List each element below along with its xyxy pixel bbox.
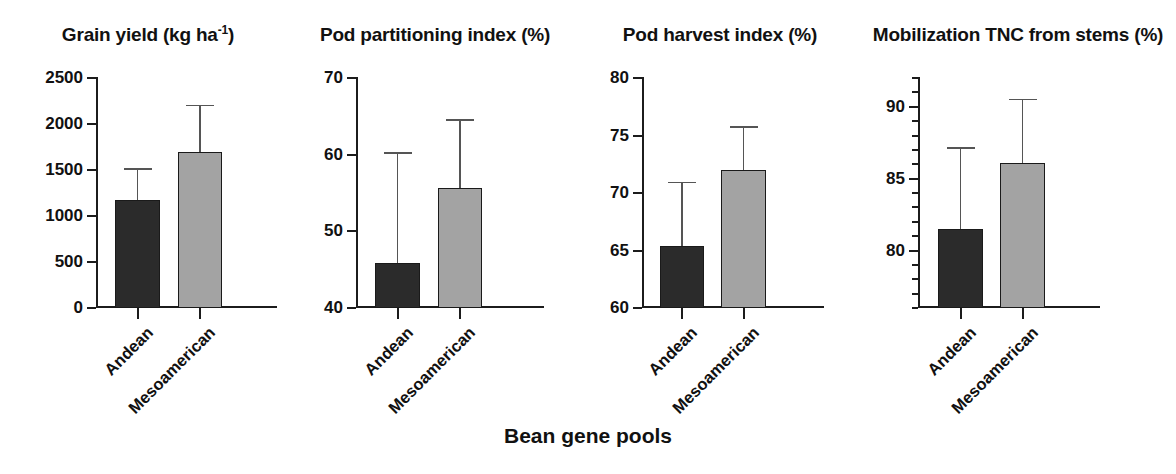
y-axis-tick: [87, 215, 96, 217]
y-axis-tick-label: 1000: [0, 206, 83, 226]
y-axis-line: [918, 77, 920, 308]
error-bar-mesoamerican: [743, 126, 745, 170]
y-axis-line: [96, 77, 98, 308]
panel-title: Grain yield (kg ha-1): [0, 24, 296, 46]
plot-area: 05001000150020002500AndeanMesoamerican: [0, 77, 296, 307]
y-axis-minor-tick: [912, 120, 918, 122]
error-bar-cap-mesoamerican: [446, 119, 474, 121]
y-axis-tick: [347, 154, 356, 156]
y-axis-tick-label: 0: [0, 298, 83, 318]
y-axis-tick: [909, 178, 918, 180]
y-axis-tick: [87, 123, 96, 125]
y-axis-tick-label: 2000: [0, 114, 83, 134]
y-axis-minor-tick: [912, 192, 918, 194]
panel-title-superscript: -1: [218, 23, 228, 37]
bar-andean: [938, 229, 983, 308]
bar-mesoamerican: [1000, 163, 1045, 308]
chart-panel-1: Grain yield (kg ha-1)0500100015002000250…: [0, 0, 296, 410]
panel-title-text: Pod harvest index (%): [623, 24, 817, 45]
y-axis-minor-tick: [912, 206, 918, 208]
figure-canvas: Grain yield (kg ha-1)0500100015002000250…: [0, 0, 1176, 474]
error-bar-cap-andean: [668, 182, 696, 184]
y-axis-tick-label: 40: [290, 298, 343, 318]
error-bar-andean: [397, 152, 399, 262]
x-axis-label-andean: Andean: [360, 323, 416, 379]
error-bar-mesoamerican: [459, 119, 461, 188]
y-axis-line: [356, 77, 358, 308]
y-axis-tick-label: 50: [290, 221, 343, 241]
x-axis-title: Bean gene pools: [0, 424, 1176, 448]
x-axis-tick: [1022, 308, 1024, 319]
y-axis-tick-label: 2500: [0, 68, 83, 88]
y-axis-minor-tick: [912, 221, 918, 223]
y-axis-tick: [633, 77, 642, 79]
y-axis-tick: [633, 192, 642, 194]
y-axis-tick: [87, 169, 96, 171]
y-axis-tick: [347, 230, 356, 232]
y-axis-minor-tick: [912, 91, 918, 93]
y-axis-tick-label: 85: [860, 169, 905, 189]
error-bar-andean: [960, 147, 962, 229]
y-axis-tick: [87, 307, 96, 309]
error-bar-cap-mesoamerican: [186, 105, 214, 107]
panel-title: Mobilization TNC from stems (%): [860, 24, 1176, 46]
y-axis-minor-tick: [912, 278, 918, 280]
panel-title: Pod harvest index (%): [580, 24, 860, 46]
x-axis-label-andean: Andean: [100, 323, 156, 379]
y-axis-tick-label: 500: [0, 252, 83, 272]
y-axis-minor-tick: [912, 77, 918, 79]
plot-area: 40506070AndeanMesoamerican: [290, 77, 580, 307]
plot-area: 6065707580AndeanMesoamerican: [580, 77, 860, 307]
y-axis-tick-label: 70: [580, 183, 629, 203]
y-axis-minor-tick: [912, 307, 918, 309]
y-axis-minor-tick: [912, 135, 918, 137]
y-axis-minor-tick: [912, 163, 918, 165]
y-axis-tick-label: 1500: [0, 160, 83, 180]
x-axis-tick: [397, 308, 399, 319]
panel-title-text: Grain yield (kg ha: [62, 24, 218, 45]
x-axis-tick: [137, 308, 139, 319]
y-axis-tick-label: 75: [580, 126, 629, 146]
y-axis-tick: [909, 106, 918, 108]
plot-area: 808590AndeanMesoamerican: [860, 77, 1176, 307]
chart-panel-4: Mobilization TNC from stems (%)808590And…: [860, 0, 1176, 410]
y-axis-minor-tick: [912, 264, 918, 266]
y-axis-tick-label: 60: [290, 145, 343, 165]
y-axis-tick: [909, 250, 918, 252]
y-axis-tick-label: 80: [580, 68, 629, 88]
bar-mesoamerican: [178, 152, 222, 308]
bar-andean: [115, 200, 160, 308]
error-bar-cap-andean: [947, 147, 975, 149]
y-axis-tick-label: 80: [860, 241, 905, 261]
x-axis-tick: [743, 308, 745, 319]
y-axis-tick: [347, 307, 356, 309]
panel-title: Pod partitioning index (%): [290, 24, 580, 46]
bar-andean: [375, 263, 420, 308]
error-bar-cap-andean: [384, 152, 412, 154]
x-axis-tick: [681, 308, 683, 319]
bar-mesoamerican: [721, 170, 766, 308]
y-axis-minor-tick: [912, 293, 918, 295]
error-bar-cap-mesoamerican: [730, 126, 758, 128]
chart-panel-3: Pod harvest index (%)6065707580AndeanMes…: [580, 0, 860, 410]
x-axis-label-andean: Andean: [923, 323, 979, 379]
y-axis-minor-tick: [912, 235, 918, 237]
y-axis-line: [642, 77, 644, 308]
y-axis-tick: [633, 250, 642, 252]
y-axis-tick: [87, 77, 96, 79]
error-bar-andean: [681, 182, 683, 246]
error-bar-mesoamerican: [1022, 99, 1024, 164]
y-axis-tick-label: 70: [290, 68, 343, 88]
panel-title-text: Mobilization TNC from stems (%): [873, 24, 1163, 45]
y-axis-minor-tick: [912, 149, 918, 151]
y-axis-tick: [87, 261, 96, 263]
y-axis-tick-label: 60: [580, 298, 629, 318]
y-axis-tick-label: 90: [860, 97, 905, 117]
error-bar-andean: [137, 168, 139, 200]
x-axis-tick: [199, 308, 201, 319]
error-bar-cap-andean: [124, 168, 152, 170]
error-bar-mesoamerican: [199, 105, 201, 152]
error-bar-cap-mesoamerican: [1009, 99, 1037, 101]
panel-title-suffix: ): [228, 24, 234, 45]
y-axis-tick: [633, 135, 642, 137]
